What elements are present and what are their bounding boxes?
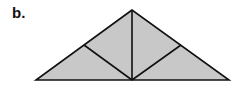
figure-canvas: b. — [0, 0, 241, 89]
triangle-diagram — [0, 0, 241, 89]
